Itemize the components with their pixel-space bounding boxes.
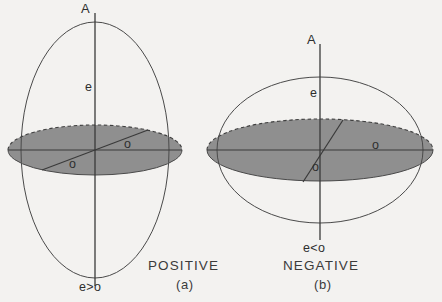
panel-b-condition-label: e<o xyxy=(303,241,325,255)
ellipsoid-ellipticity-figure: A e o o e>o POSITIVE (a) A e o o e<o NEG… xyxy=(0,0,442,302)
panel-b-sub-caption: (b) xyxy=(314,277,332,292)
panel-a-condition-label: e>o xyxy=(79,280,101,294)
panel-a-sub-caption: (a) xyxy=(176,277,194,292)
panel-a-equatorial-label-2: o xyxy=(69,157,76,171)
panel-a-axis-top-label: A xyxy=(81,1,90,16)
panel-a-polar-axis-label: e xyxy=(85,80,92,94)
panel-b-polar-axis-label: e xyxy=(310,86,317,100)
panel-b-equatorial-label-2: o xyxy=(312,160,319,174)
panel-a-equatorial-label-1: o xyxy=(124,137,131,151)
panel-b-equatorial-label-1: o xyxy=(372,138,379,152)
panel-a-caption: POSITIVE xyxy=(148,258,219,273)
panel-a-drawing xyxy=(8,13,182,286)
panel-b-caption: NEGATIVE xyxy=(283,258,359,273)
panel-b-drawing xyxy=(207,44,433,240)
panel-b-axis-top-label: A xyxy=(307,32,316,47)
